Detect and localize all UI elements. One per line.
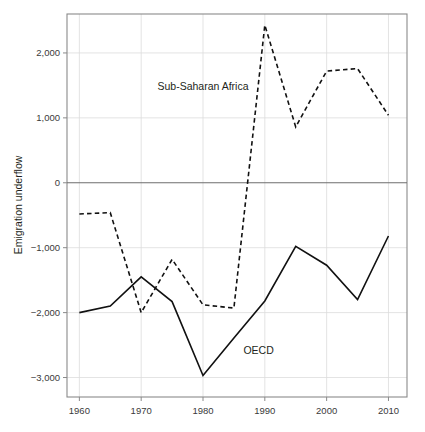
x-tick-label: 2000 (316, 405, 337, 416)
y-tick-label: 0 (55, 177, 60, 188)
y-tick-label: −3,000 (31, 372, 60, 383)
chart-background (0, 0, 425, 432)
x-tick-label: 1970 (131, 405, 152, 416)
x-tick-label: 1960 (69, 405, 90, 416)
y-axis-title: Emigration underflow (12, 155, 24, 254)
series-label-sub-saharan-africa: Sub-Saharan Africa (157, 80, 248, 92)
y-tick-label: 2,000 (36, 47, 60, 58)
x-tick-label: 1980 (192, 405, 213, 416)
series-label-oecd: OECD (243, 344, 274, 356)
line-chart: 196019701980199020002010 2,0001,0000−1,0… (0, 0, 425, 432)
x-tick-label: 2010 (378, 405, 399, 416)
chart-figure: 196019701980199020002010 2,0001,0000−1,0… (0, 0, 425, 432)
y-tick-label: −1,000 (31, 242, 60, 253)
y-tick-label: 1,000 (36, 112, 60, 123)
x-tick-label: 1990 (254, 405, 275, 416)
y-tick-label: −2,000 (31, 307, 60, 318)
